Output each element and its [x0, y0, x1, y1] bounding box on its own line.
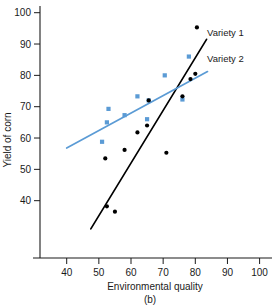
scatter-plot-svg: 405060708090100 405060708090100 Variety … [0, 0, 279, 306]
data-point [103, 156, 107, 160]
x-axis-ticks [67, 258, 260, 264]
x-axis-title: Environmental quality [107, 281, 203, 292]
panel-label: (b) [144, 294, 156, 305]
data-point [187, 54, 191, 58]
figure-panel-b: 405060708090100 405060708090100 Variety … [0, 0, 279, 306]
data-point [122, 113, 126, 117]
y-tick-label: 80 [20, 70, 32, 81]
data-point [188, 77, 192, 81]
y-tick-label: 50 [20, 164, 32, 175]
data-point [135, 130, 139, 134]
fit-line-variety-2 [67, 72, 208, 148]
x-tick-label: 40 [61, 267, 73, 278]
x-tick-label: 80 [190, 267, 202, 278]
data-point [105, 204, 109, 208]
y-axis-tick-labels: 405060708090100 [14, 7, 31, 206]
data-point [180, 94, 184, 98]
data-point [193, 72, 197, 76]
data-point [106, 107, 110, 111]
data-point [195, 25, 199, 29]
data-point [147, 98, 151, 102]
axes-group [33, 6, 272, 258]
data-point [164, 151, 168, 155]
x-tick-label: 70 [158, 267, 170, 278]
x-tick-label: 50 [93, 267, 105, 278]
y-tick-label: 40 [20, 195, 32, 206]
data-point [105, 120, 109, 124]
data-point [163, 73, 167, 77]
y-tick-label: 70 [20, 101, 32, 112]
data-point [113, 210, 117, 214]
x-tick-label: 100 [251, 267, 268, 278]
data-point [145, 123, 149, 127]
y-tick-label: 60 [20, 133, 32, 144]
y-tick-label: 100 [14, 7, 31, 18]
y-axis-ticks [34, 13, 40, 201]
data-point [122, 148, 126, 152]
x-axis-tick-labels: 405060708090100 [61, 267, 268, 278]
y-axis-title: Yield of corn [2, 112, 13, 167]
x-tick-label: 90 [222, 267, 234, 278]
x-tick-label: 60 [125, 267, 137, 278]
data-point [100, 140, 104, 144]
fit-line-variety-1 [91, 39, 207, 229]
y-tick-label: 90 [20, 39, 32, 50]
data-point [145, 117, 149, 121]
data-point [135, 94, 139, 98]
legend-label-variety-2: Variety 2 [207, 53, 244, 64]
series-variety-2-points [100, 54, 191, 143]
legend-label-variety-1: Variety 1 [207, 27, 244, 38]
